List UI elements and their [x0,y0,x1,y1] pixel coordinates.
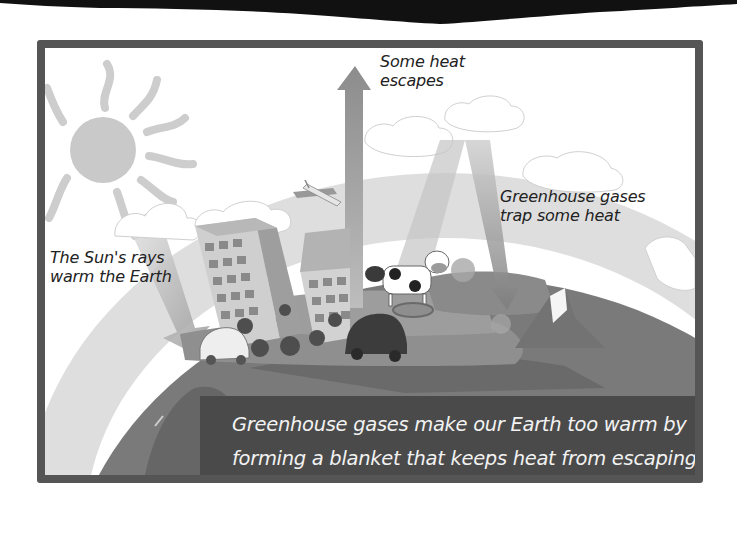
illustration-canvas: Some heat escapes Greenhouse gases trap … [45,48,695,475]
label-line: escapes [380,71,465,90]
label-line: warm the Earth [50,267,172,286]
label-sun-rays: The Sun's rays warm the Earth [50,248,172,286]
label-line: The Sun's rays [50,248,172,267]
torn-paper-edge [0,0,737,30]
label-line: Some heat [380,52,465,71]
pond-icon [393,303,433,317]
caption-line: forming a blanket that keeps heat from e… [232,442,695,475]
caption-line: Greenhouse gases make our Earth too warm… [232,408,695,442]
caption-box: Greenhouse gases make our Earth too warm… [200,396,695,475]
label-heat-escapes: Some heat escapes [380,52,465,90]
label-line: trap some heat [500,206,645,225]
label-gases-trap-heat: Greenhouse gases trap some heat [500,187,645,225]
label-line: Greenhouse gases [500,187,645,206]
illustration-frame: Some heat escapes Greenhouse gases trap … [37,40,703,483]
